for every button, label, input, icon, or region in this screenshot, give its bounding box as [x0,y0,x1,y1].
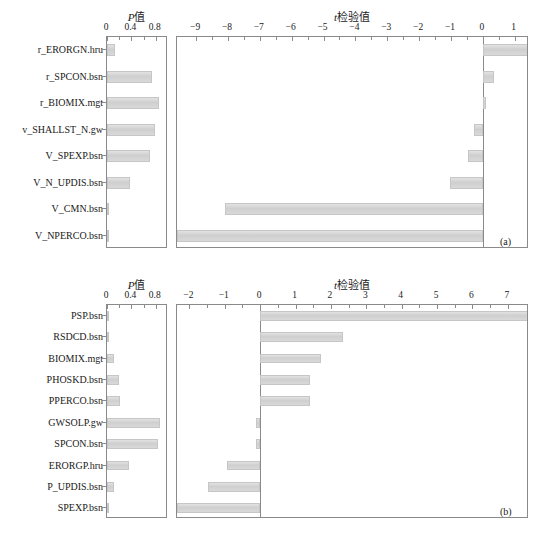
bar-p-value [107,375,119,385]
bar-p-value [107,71,152,83]
bar-p-value [107,44,115,56]
category-label: GWSOLP.gw [48,416,103,427]
axis-tick-mark [296,305,297,309]
bar-t-test [468,150,482,162]
figure-root: r_ERORGN.hrur_SPCON.bsnr_BIOMIX.mgtv_SHA… [0,0,543,538]
plot-area-p-value-1 [106,304,167,518]
bar-p-value [107,332,109,342]
axis-minor-tick-mark [119,305,120,308]
bar-p-value [107,150,150,162]
bar-t-test [483,97,486,109]
axis-minor-tick-mark [313,305,314,308]
category-label: PHOSKD.bsn [47,373,103,384]
zero-axis-line [483,37,484,247]
category-label: V_SPEXP.bsn [45,150,103,161]
bar-t-test [260,375,310,385]
axis-ticklabels-t-test-0: −9−8−7−6−5−4−3−2−101 [0,20,543,34]
axis-ticklabel: −5 [317,20,327,34]
bar-p-value [107,311,109,321]
axis-ticklabel: −4 [349,20,359,34]
axis-tick-mark [324,37,325,41]
axis-minor-tick-mark [371,37,372,40]
category-label: r_BIOMIX.mgt [40,97,103,108]
category-label: r_SPCON.bsn [46,70,103,81]
category-label: RSDCD.bsn [53,331,103,342]
axis-tick-mark [225,305,226,309]
axis-ticklabel: 4 [398,288,403,302]
axis-minor-tick-mark [419,305,420,308]
bar-p-value [107,230,109,242]
bar-p-value [107,418,160,428]
axis-tick-mark [189,305,190,309]
category-label: V_NPERCO.bsn [35,229,103,240]
category-label: PSP.bsn [71,309,103,320]
panel-label: (b) [500,506,512,517]
bar-t-test [483,44,528,56]
axis-minor-tick-mark [384,305,385,308]
axis-minor-tick-mark [144,305,145,308]
bar-t-test [483,71,494,83]
bar-t-test [450,177,482,189]
bar-p-value [107,97,159,109]
bar-t-test [256,439,261,449]
axis-ticklabel: −7 [254,20,264,34]
category-label: BIOMIX.mgt [48,352,103,363]
axis-minor-tick-mark [276,37,277,40]
axis-tick-mark [131,305,132,309]
category-label: ERORGP.hru [49,459,103,470]
chart-panel-a: r_ERORGN.hrur_SPCON.bsnr_BIOMIX.mgtv_SHA… [0,0,543,268]
axis-tick-mark [107,37,108,41]
category-label: r_ERORGN.hru [38,44,103,55]
bar-t-test [260,396,310,406]
axis-ticklabel: 5 [434,288,439,302]
bar-t-test [177,503,260,513]
axis-tick-mark [437,305,438,309]
axis-ticklabel: −8 [222,20,232,34]
bar-t-test [260,332,343,342]
axis-ticklabel: −2 [413,20,423,34]
plot-area-t-test-0 [176,36,528,248]
axis-tick-mark [419,37,420,41]
bar-t-test [256,418,261,428]
category-label: PPERCO.bsn [49,395,103,406]
axis-ticklabel: 6 [469,288,474,302]
bar-p-value [107,461,129,471]
axis-tick-mark [260,37,261,41]
axis-minor-tick-mark [244,37,245,40]
axis-tick-mark [366,305,367,309]
axis-tick-mark [355,37,356,41]
category-label: V_CMN.bsn [52,203,103,214]
bar-t-test [208,482,260,492]
bar-p-value [107,354,114,364]
axis-minor-tick-mark [499,37,500,40]
axis-ticklabel: −6 [286,20,296,34]
plot-area-t-test-1 [176,304,528,518]
bar-p-value [107,503,109,513]
axis-ticklabel: −1 [219,288,229,302]
axis-tick-mark [402,305,403,309]
axis-ticklabel: 1 [292,288,297,302]
axis-minor-tick-mark [207,305,208,308]
bar-p-value [107,482,114,492]
axis-minor-tick-mark [490,305,491,308]
axis-ticklabel: 0 [479,20,484,34]
axis-ticklabel: −1 [445,20,455,34]
axis-ticklabel: 0 [257,288,262,302]
category-label: P_UPDIS.bsn [47,480,103,491]
axis-tick-mark [107,305,108,309]
axis-tick-mark [292,37,293,41]
axis-ticklabel: 7 [504,288,509,302]
bar-t-test [177,230,483,242]
category-label: v_SHALLST_N.gw [22,123,103,134]
category-label: SPCON.bsn [54,438,103,449]
axis-minor-tick-mark [242,305,243,308]
axis-ticklabel: 2 [328,288,333,302]
axis-ticklabel: −9 [190,20,200,34]
axis-tick-mark [131,37,132,41]
axis-ticklabel: 3 [363,288,368,302]
axis-tick-mark [196,37,197,41]
axis-ticklabel: −2 [183,288,193,302]
axis-minor-tick-mark [144,37,145,40]
axis-minor-tick-mark [435,37,436,40]
axis-minor-tick-mark [339,37,340,40]
